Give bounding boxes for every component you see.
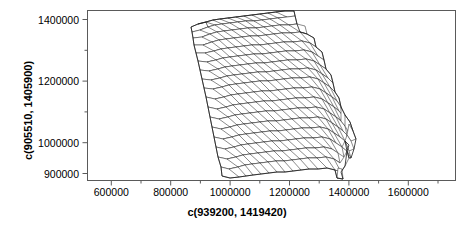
georgia-county-polygons <box>191 11 356 179</box>
plot-canvas: 600000 800000 1000000 1200000 1400000 16… <box>0 0 474 229</box>
x-tick-label: 1000000 <box>210 186 251 198</box>
x-axis-title: c(939200, 1419420) <box>0 206 474 218</box>
x-tick-label: 1600000 <box>388 186 429 198</box>
x-axis-ticks <box>111 181 438 186</box>
y-axis-title: c(905510, 1405900) <box>22 61 34 160</box>
y-tick-label: 900000 <box>24 168 79 180</box>
x-tick-label: 1200000 <box>269 186 310 198</box>
x-tick-label: 800000 <box>153 186 188 198</box>
x-tick-label: 1400000 <box>328 186 369 198</box>
y-axis-ticks <box>83 20 88 174</box>
x-tick-label: 600000 <box>94 186 129 198</box>
y-tick-label: 1400000 <box>18 14 79 26</box>
